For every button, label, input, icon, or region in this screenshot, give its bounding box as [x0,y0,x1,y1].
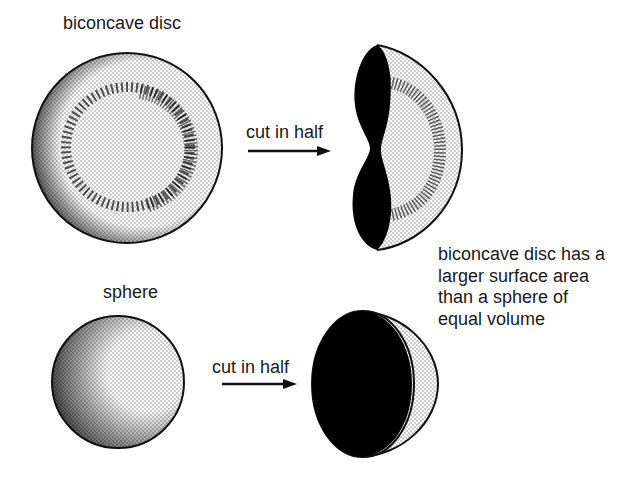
note-line: biconcave disc has a [438,244,605,266]
biconcave-disc-half-icon [353,45,462,250]
arrow-right-icon [222,379,297,389]
sphere-whole-icon [52,316,184,448]
cut-in-half-label-bottom: cut in half [212,356,289,378]
sphere-half-icon [312,311,438,457]
biconcave-disc-label: biconcave disc [63,12,181,34]
diagram-canvas [0,0,642,483]
note-line: equal volume [438,309,605,331]
note-line: than a sphere of [438,287,605,309]
surface-area-note: biconcave disc has a larger surface area… [438,244,605,330]
arrow-right-icon [248,146,331,156]
cut-in-half-label-top: cut in half [246,121,323,143]
note-line: larger surface area [438,266,605,288]
biconcave-disc-whole-icon [32,53,222,243]
sphere-label: sphere [103,281,158,303]
